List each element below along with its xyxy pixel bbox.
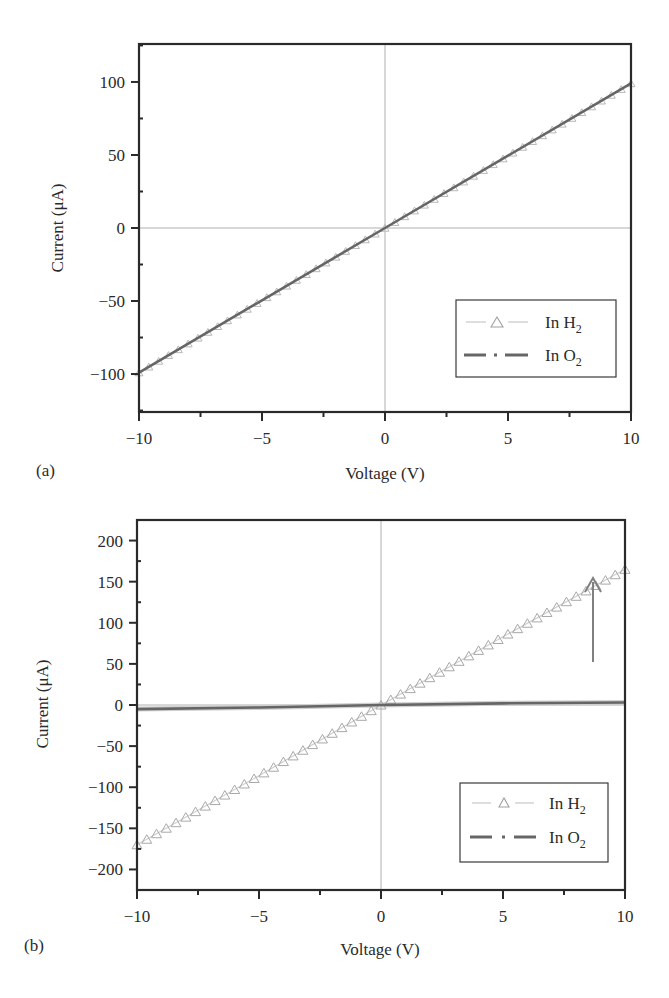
x-tick-label: −10 [126, 429, 153, 448]
legend-label-h2: In H [545, 313, 576, 332]
x-tick-label: 5 [499, 907, 508, 926]
x-tick-label: −5 [250, 907, 268, 926]
x-tick-label: 0 [377, 907, 386, 926]
legend-label-h2: In H [549, 794, 580, 813]
y-tick-label: −200 [88, 860, 123, 879]
panel-label: (b) [24, 936, 44, 955]
x-tick-label: −10 [124, 907, 151, 926]
x-tick-label: −5 [253, 429, 271, 448]
panel-label: (a) [36, 461, 55, 480]
y-axis-title: Current (μA) [33, 660, 52, 749]
y-tick-label: −50 [96, 737, 123, 756]
legend-label-o2: In O [545, 346, 576, 365]
y-axis-ticks: 200150100500−50−100−150−200 [88, 520, 141, 890]
legend-box [456, 300, 616, 377]
y-tick-label: 200 [98, 532, 124, 551]
y-tick-label: 50 [108, 146, 125, 165]
legend-label-o2: In O [549, 828, 580, 847]
chart-panel-b: 200150100500−50−100−150−200 −10−50510 Cu… [24, 520, 634, 959]
legend: In H2 In O2 [460, 783, 608, 862]
chart-panel-a: 100500−50−100 −10−50510 Current (μA) Vol… [36, 44, 640, 483]
y-tick-label: −50 [98, 292, 125, 311]
y-axis-title: Current (μA) [48, 184, 67, 273]
x-axis-ticks: −10−50510 [126, 412, 640, 448]
x-tick-label: 10 [617, 907, 634, 926]
y-tick-label: 0 [117, 219, 126, 238]
x-tick-label: 10 [623, 429, 640, 448]
y-tick-label: 100 [98, 614, 124, 633]
y-axis-ticks: 100500−50−100 [90, 45, 143, 410]
y-tick-label: 0 [115, 696, 124, 715]
y-tick-label: 100 [100, 73, 126, 92]
y-tick-label: 50 [106, 655, 123, 674]
x-tick-label: 5 [504, 429, 513, 448]
x-axis-title: Voltage (V) [340, 940, 419, 959]
y-tick-label: −100 [90, 365, 125, 384]
figure: 100500−50−100 −10−50510 Current (μA) Vol… [0, 0, 669, 998]
y-tick-label: −150 [88, 819, 123, 838]
x-axis-title: Voltage (V) [345, 464, 424, 483]
y-tick-label: −100 [88, 778, 123, 797]
legend: In H2 In O2 [456, 300, 616, 377]
y-tick-label: 150 [98, 573, 124, 592]
x-tick-label: 0 [381, 429, 390, 448]
legend-box [460, 783, 608, 862]
x-axis-ticks: −10−50510 [124, 890, 634, 926]
